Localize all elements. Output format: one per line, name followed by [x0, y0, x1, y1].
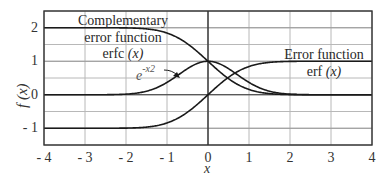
erf-label-line2: erf (x) — [284, 64, 364, 81]
erfc-label-line3: erfc (x) — [78, 46, 168, 63]
erf-fn: erf — [307, 64, 323, 79]
y-axis-label: f (x) — [15, 83, 30, 108]
gaussian-annotation-arrow — [164, 70, 180, 78]
gaussian-label: e-x2 — [136, 66, 155, 83]
erfc-label-line2: error function — [78, 30, 168, 47]
erfc-arg: (x) — [128, 46, 144, 61]
erfc-label-line1: Complementary — [78, 13, 168, 30]
x-tick-label: - 2 — [118, 151, 133, 165]
erfc-fn: erfc — [103, 46, 125, 61]
y-tick-label: 2 — [8, 21, 38, 35]
x-tick-label: - 3 — [77, 151, 92, 165]
erf-annotation: Error function erf (x) — [284, 47, 364, 80]
x-tick-label: 2 — [287, 151, 294, 165]
x-tick-label: - 1 — [159, 151, 174, 165]
y-tick-label: 1 — [8, 54, 38, 68]
x-tick-label: 1 — [246, 151, 253, 165]
erf-arg: (x) — [326, 64, 342, 79]
y-tick-label: - 1 — [8, 121, 38, 135]
gaussian-exponent: -x2 — [142, 63, 155, 74]
erf-label-line1: Error function — [284, 47, 364, 64]
x-tick-label: 3 — [328, 151, 335, 165]
x-axis-label: x — [204, 162, 210, 176]
erfc-annotation: Complementary error function erfc (x) — [78, 13, 168, 63]
x-tick-label: - 4 — [36, 151, 51, 165]
x-tick-label: 4 — [369, 151, 376, 165]
